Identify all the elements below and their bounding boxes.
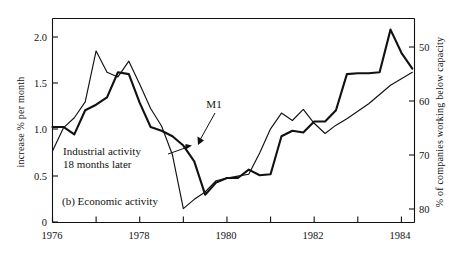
y2-tick-label-60: 60 [419,96,430,107]
y2-tick-label-50: 50 [419,42,430,53]
y-axis-right-labels: 50 60 70 80 [419,42,430,215]
economic-activity-figure: 2.0 1.5 1.0 0.5 0 50 60 70 80 1976 1978 … [0,0,467,253]
annotation-m1-leader [200,113,215,140]
y-tick-label-1-0: 1.0 [34,124,47,135]
annotation-m1-label: M1 [206,98,221,110]
y2-tick-label-80: 80 [419,204,430,215]
y-axis-left-title: increase % per month [15,77,26,168]
y-axis-left-ticks [53,37,59,222]
series-line-m1 [53,51,413,209]
x-axis-labels: 1976 1978 1980 1982 1984 [42,230,412,241]
y-tick-label-2-0: 2.0 [34,32,47,43]
y-tick-label-0-5: 0.5 [34,171,47,182]
annotation-industrial-line2: 18 months later [63,158,132,170]
x-tick-label-1976: 1976 [42,230,63,241]
annotation-m1: M1 [198,98,222,145]
y-axis-right-ticks [409,47,415,209]
x-axis-ticks [53,217,402,223]
x-tick-label-1980: 1980 [216,230,237,241]
series-group [53,30,413,209]
plot-frame [53,19,415,223]
y-axis-right-title: % of companies working below capacity [434,37,445,207]
annotation-industrial-arrowhead [185,144,192,150]
annotation-industrial-line1: Industrial activity [63,145,141,157]
y2-tick-label-70: 70 [419,150,430,161]
y-axis-left-labels: 2.0 1.5 1.0 0.5 0 [34,32,47,228]
plot-caption: (b) Economic activity [62,195,158,208]
y-tick-label-0: 0 [42,217,47,228]
x-tick-label-1984: 1984 [390,230,412,241]
caption-label: (b) Economic activity [62,195,158,208]
economic-activity-chart: 2.0 1.5 1.0 0.5 0 50 60 70 80 1976 1978 … [0,0,467,253]
x-tick-label-1978: 1978 [129,230,150,241]
x-tick-label-1982: 1982 [303,230,324,241]
y-tick-label-1-5: 1.5 [34,78,47,89]
